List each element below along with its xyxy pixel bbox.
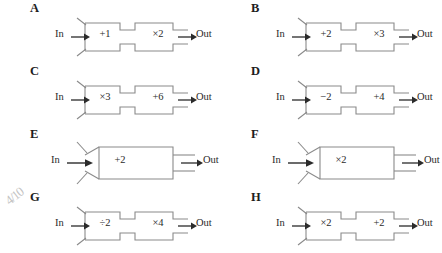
operation-h-2: +2 <box>361 217 397 228</box>
in-label-c: In <box>55 91 64 102</box>
operation-a-1: +1 <box>87 28 123 39</box>
operation-e-1: +2 <box>100 154 140 165</box>
panel-c: C In Out ×3 +6 <box>0 63 221 126</box>
panel-b: B In Out +2 ×3 <box>221 0 442 63</box>
in-label-e: In <box>51 154 60 165</box>
operation-c-1: ×3 <box>87 91 123 102</box>
panel-letter-a: A <box>30 2 39 14</box>
in-label-b: In <box>276 28 285 39</box>
panel-a: A In Out <box>0 0 221 63</box>
panel-h: H In Out ×2 +2 <box>221 189 442 252</box>
operation-a-2: ×2 <box>140 28 176 39</box>
operation-c-2: +6 <box>140 91 176 102</box>
operation-d-1: −2 <box>308 91 344 102</box>
out-label-c: Out <box>196 91 212 102</box>
panel-letter-b: B <box>251 2 259 14</box>
operation-g-1: ÷2 <box>87 217 123 228</box>
out-label-b: Out <box>417 28 433 39</box>
panel-letter-e: E <box>30 128 38 140</box>
worksheet-sheet: A In Out <box>0 0 442 253</box>
out-label-a: Out <box>196 28 212 39</box>
out-label-f: Out <box>424 154 440 165</box>
panel-letter-c: C <box>30 65 39 77</box>
operation-b-1: +2 <box>308 28 344 39</box>
out-label-h: Out <box>417 217 433 228</box>
panel-letter-g: G <box>30 191 40 203</box>
in-label-d: In <box>276 91 285 102</box>
out-label-d: Out <box>417 91 433 102</box>
panel-f: F In Out ×2 <box>221 126 442 189</box>
operation-f-1: ×2 <box>321 154 361 165</box>
in-label-h: In <box>276 217 285 228</box>
panel-letter-h: H <box>251 191 261 203</box>
panel-g: G In Out ÷2 ×4 <box>0 189 221 252</box>
panel-letter-f: F <box>251 128 259 140</box>
in-label-g: In <box>55 217 64 228</box>
operation-g-2: ×4 <box>140 217 176 228</box>
operation-b-2: ×3 <box>361 28 397 39</box>
in-label-f: In <box>272 154 281 165</box>
operation-d-2: +4 <box>361 91 397 102</box>
operation-h-1: ×2 <box>308 217 344 228</box>
out-label-e: Out <box>203 154 219 165</box>
out-label-g: Out <box>196 217 212 228</box>
in-label-a: In <box>55 28 64 39</box>
panel-e: E In Out +2 <box>0 126 221 189</box>
panel-letter-d: D <box>251 65 260 77</box>
panel-d: D In Out −2 +4 <box>221 63 442 126</box>
